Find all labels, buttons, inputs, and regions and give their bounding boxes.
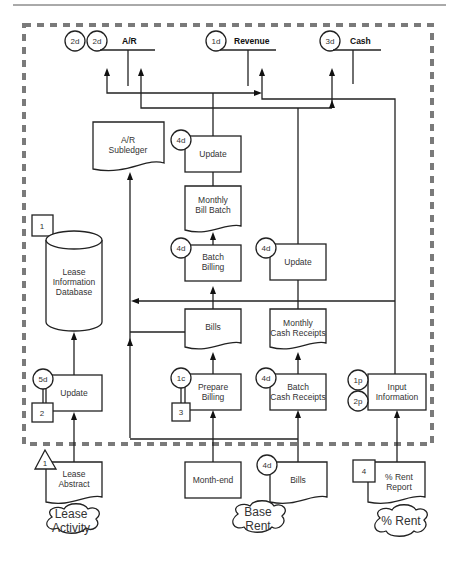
ledger-cash: 3d Cash (320, 31, 381, 84)
svg-text:Input: Input (388, 382, 408, 392)
ref-label: 2d (93, 37, 102, 46)
doc-ar-subledger: A/R Subledger (93, 122, 164, 171)
process-update-ar: 4d Update (171, 130, 241, 172)
top-connectors (104, 68, 395, 388)
source-pct-rent: % Rent (375, 505, 427, 537)
ref-label: 2d (71, 37, 80, 46)
svg-text:Update: Update (199, 149, 227, 159)
svg-text:Billing: Billing (202, 262, 225, 272)
svg-text:Month-end: Month-end (193, 475, 234, 485)
svg-text:Subledger: Subledger (109, 145, 148, 155)
doc-lease-abstract: Lease Abstract 1 (35, 450, 102, 503)
svg-text:Monthly: Monthly (283, 318, 314, 328)
doc-bills-external: Bills 4d (257, 455, 327, 503)
svg-text:1: 1 (40, 222, 45, 231)
svg-text:5d: 5d (39, 375, 48, 384)
doc-monthly-cash-receipts: Monthly Cash Receipts (270, 309, 326, 349)
source-lease-activity: Lease Activity (47, 504, 99, 535)
process-update-cash: 4d Update (256, 238, 326, 280)
process-month-end: Month-end (185, 462, 241, 498)
svg-text:Lease: Lease (62, 469, 85, 479)
svg-text:Batch: Batch (202, 252, 224, 262)
svg-text:2p: 2p (354, 397, 363, 406)
svg-text:Cash Receipts: Cash Receipts (270, 328, 325, 338)
svg-text:Lease: Lease (62, 267, 85, 277)
svg-text:4: 4 (362, 467, 367, 476)
svg-text:Lease: Lease (55, 507, 88, 521)
svg-text:1p: 1p (354, 376, 363, 385)
svg-text:Rent: Rent (245, 519, 271, 533)
lease-information-database: 1 Lease Information Database (32, 215, 102, 331)
doc-monthly-bill-batch: Monthly Bill Batch (185, 186, 241, 232)
svg-text:A/R: A/R (121, 135, 135, 145)
svg-text:Base: Base (244, 505, 272, 519)
ledger-label: A/R (122, 36, 137, 46)
svg-text:Billing: Billing (202, 392, 225, 402)
ref-label: 3d (326, 37, 335, 46)
ledger-label: Revenue (234, 36, 270, 46)
svg-text:3: 3 (179, 408, 184, 417)
svg-text:1: 1 (43, 459, 48, 468)
svg-text:Monthly: Monthly (198, 195, 229, 205)
svg-text:4d: 4d (262, 374, 271, 383)
ref-label: 1d (212, 37, 221, 46)
process-input-information: 1p 2p Input Information (348, 370, 426, 411)
process-batch-cash-receipts: 4d Batch Cash Receipts (256, 368, 326, 410)
svg-text:Batch: Batch (287, 382, 309, 392)
flowchart-canvas: 2d 2d A/R 1d Revenue 3d Cash (0, 0, 457, 563)
svg-text:4d: 4d (177, 136, 186, 145)
svg-text:Information: Information (53, 277, 96, 287)
svg-text:Information: Information (376, 392, 419, 402)
svg-text:Bills: Bills (205, 322, 221, 332)
svg-text:4d: 4d (262, 244, 271, 253)
svg-text:% Rent: % Rent (381, 514, 421, 528)
doc-bills: Bills (185, 309, 241, 349)
svg-text:% Rent: % Rent (385, 472, 414, 482)
svg-text:Database: Database (56, 287, 93, 297)
doc-pct-rent-report: 4 % Rent Report (353, 460, 425, 503)
svg-text:Update: Update (60, 388, 88, 398)
process-batch-billing: 4d Batch Billing (171, 238, 241, 281)
svg-text:Update: Update (284, 257, 312, 267)
svg-text:4d: 4d (263, 461, 272, 470)
ledger-label: Cash (350, 36, 371, 46)
process-prepare-billing: 1c 3 Prepare Billing (171, 368, 241, 421)
process-update-lease: 5d 2 Update (32, 369, 102, 422)
svg-text:Activity: Activity (52, 521, 90, 535)
svg-text:Prepare: Prepare (198, 382, 229, 392)
svg-text:Bill Batch: Bill Batch (195, 205, 231, 215)
svg-text:4d: 4d (177, 244, 186, 253)
svg-text:Cash Receipts: Cash Receipts (270, 392, 325, 402)
svg-text:1c: 1c (177, 374, 185, 383)
ledger-revenue: 1d Revenue (206, 31, 276, 86)
svg-text:2: 2 (40, 409, 45, 418)
svg-text:Report: Report (386, 482, 412, 492)
svg-text:Bills: Bills (290, 475, 306, 485)
svg-text:Abstract: Abstract (58, 479, 90, 489)
source-base-rent: Base Rent (233, 501, 285, 533)
